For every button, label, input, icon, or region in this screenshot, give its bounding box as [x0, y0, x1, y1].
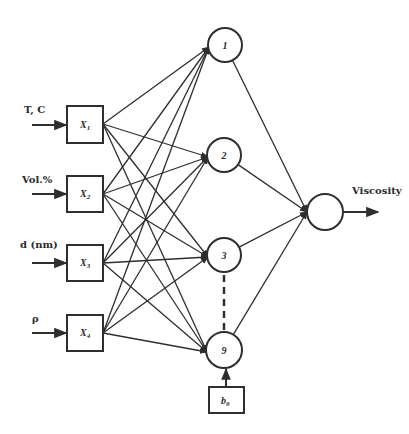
edge-x4-h3 — [103, 257, 208, 333]
edge-h2-out — [238, 165, 307, 212]
input-label-x4: ρ — [32, 313, 39, 324]
hidden-node-2: 2 — [207, 138, 241, 172]
input-label-x3: d (nm) — [20, 239, 58, 250]
hidden-node-label-2: 2 — [221, 150, 227, 161]
hidden-node-label-9: 9 — [222, 345, 227, 356]
input-x2: Vol.% X2 — [21, 174, 103, 212]
input-hidden-connections — [103, 47, 209, 352]
hidden-node-label-3: 3 — [221, 250, 227, 261]
output-label: Viscosity — [351, 185, 403, 196]
input-x1: T, C X1 — [24, 104, 103, 143]
edge-x2-h2 — [103, 157, 208, 194]
input-label-x1: T, C — [24, 104, 45, 116]
input-label-x2: Vol.% — [21, 174, 53, 185]
edge-x1-h2 — [103, 124, 208, 157]
edge-x3-h3 — [103, 257, 208, 263]
hidden-output-connections — [232, 60, 307, 334]
output-node: Viscosity — [307, 185, 403, 230]
edge-x4-h2 — [103, 157, 208, 333]
edge-x4-h9 — [103, 333, 207, 352]
hidden-node-9: 9 — [206, 332, 242, 368]
hidden-node-label-1: 1 — [223, 40, 228, 51]
input-x4: ρ X4 — [32, 313, 103, 351]
edge-h1-out — [232, 60, 307, 212]
edge-x3-h1 — [103, 47, 209, 263]
edge-x4-h1 — [103, 47, 209, 333]
input-x3: d (nm) X3 — [20, 239, 103, 281]
edge-x2-h9 — [103, 194, 207, 352]
output-node-circle — [307, 194, 343, 230]
hidden-node-3: 3 — [207, 238, 241, 272]
hidden-node-1: 1 — [208, 28, 242, 62]
bias-b9: b9 — [209, 369, 244, 413]
edge-x1-h1 — [103, 47, 209, 124]
neural-network-diagram: T, C X1 Vol.% X2 d (nm) X3 ρ X4 1 2 3 9 — [0, 0, 409, 434]
